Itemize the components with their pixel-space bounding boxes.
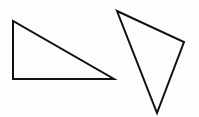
triangles-drawing — [0, 0, 199, 117]
right-triangle-shape — [117, 11, 184, 113]
figure-canvas — [0, 0, 199, 117]
left-triangle-shape — [13, 21, 114, 79]
